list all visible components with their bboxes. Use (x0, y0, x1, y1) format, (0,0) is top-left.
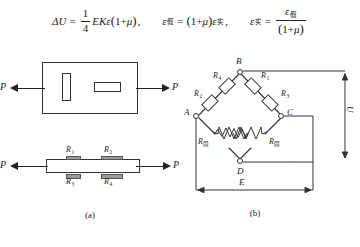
bridge-resistor-label-r3: R3 (281, 89, 289, 99)
bridge-resistor-label-r1: R1 (261, 71, 269, 81)
comma: , (224, 15, 228, 27)
resistor-subscript: 2 (199, 93, 202, 99)
fixed-resistor-label-left: R固 (198, 137, 209, 148)
force-label-left: P (0, 81, 6, 92)
subscript-apparent: 假 (289, 11, 297, 18)
force-arrow-left-shaft-2 (18, 166, 48, 167)
resistor-label-r4: R4 (104, 177, 112, 187)
resistor-subscript: 3 (71, 181, 74, 187)
equals-sign: = (262, 15, 274, 27)
equation-delta-u: ΔU = 1 4 EKε(1+μ), (52, 8, 140, 34)
node-a (193, 113, 199, 119)
fixed-resistor-label-right: R固 (269, 137, 280, 148)
force-arrow-right-head-2 (163, 162, 171, 170)
node-label-d: D (237, 166, 244, 176)
gauge-mark-r2 (101, 156, 123, 161)
subscript-actual: 实 (217, 16, 225, 26)
formula-row: ΔU = 1 4 EKε(1+μ), ε假 = (1+μ)ε实, ε实 = ε假… (0, 4, 360, 38)
subscript-apparent: 假 (167, 16, 175, 26)
node-b (237, 69, 243, 75)
equals-sign: = (174, 15, 186, 27)
resistor-subscript: 固 (203, 141, 209, 147)
force-arrow-left-head-2 (10, 162, 18, 170)
caption-a: (a) (70, 210, 110, 220)
u-symbol: U (59, 15, 67, 27)
specimen-strip (46, 159, 140, 173)
e-symbol: E (92, 15, 99, 27)
comma: , (137, 15, 141, 27)
fraction-one-quarter: 1 4 (81, 8, 91, 34)
resistor-subscript: 2 (109, 149, 112, 155)
bridge-resistor-label-r4: R4 (213, 71, 221, 81)
fraction-denominator: (1+μ) (276, 20, 306, 36)
one-plus: 1+ (282, 23, 294, 35)
resistor-subscript: 4 (218, 75, 221, 81)
fixed-resistor-zigzags (185, 40, 360, 225)
node-d (237, 158, 243, 164)
node-label-a: A (184, 107, 190, 117)
resistor-subscript: 1 (266, 75, 269, 81)
force-arrow-left-head (10, 84, 18, 92)
fraction-numerator: 1 (81, 8, 91, 20)
subscript-actual: 实 (254, 16, 262, 26)
specimen-block-group (42, 62, 138, 114)
force-arrow-right-shaft (136, 88, 163, 89)
resistor-subscript: 4 (109, 181, 112, 187)
output-label-u: U (345, 106, 355, 113)
resistor-subscript: 固 (274, 141, 280, 147)
force-label-right-2: P (173, 159, 179, 170)
node-label-b: B (236, 56, 242, 66)
resistor-label-r2: R2 (104, 145, 112, 155)
bridge-resistor-label-r2: R2 (194, 89, 202, 99)
one-plus: 1+ (115, 15, 127, 27)
source-label-e: E (239, 177, 245, 187)
close-paren: ) (300, 21, 304, 36)
force-label-left-2: P (0, 159, 6, 170)
figure-b: B A C D R4 R2 R1 R3 R固 R固 E U (b) (185, 40, 360, 225)
figure-a: P P R1 R2 R3 R4 P (0, 42, 182, 222)
resistor-label-r1: R1 (66, 145, 74, 155)
resistor-subscript: 1 (71, 149, 74, 155)
specimen-block (42, 62, 138, 114)
resistor-label-r3: R3 (66, 177, 74, 187)
fraction-numerator: ε假 (283, 6, 299, 20)
fraction-denominator: 4 (81, 21, 91, 34)
equation-epsilon-actual: ε实 = ε假 (1+μ) (250, 6, 308, 35)
gauge-mark-r1 (66, 156, 81, 161)
equation-epsilon-apparent: ε假 = (1+μ)ε实, (162, 13, 228, 29)
force-label-right: P (172, 81, 178, 92)
one-plus: 1+ (191, 15, 203, 27)
figure-page: ΔU = 1 4 EKε(1+μ), ε假 = (1+μ)ε实, ε实 = ε假… (0, 0, 360, 247)
force-arrow-right-head (162, 84, 170, 92)
resistor-subscript: 3 (286, 93, 289, 99)
fraction-epsilon-over-one-plus-mu: ε假 (1+μ) (276, 6, 306, 35)
caption-b: (b) (235, 208, 275, 218)
node-label-c: C (287, 107, 293, 117)
strain-gauge-vertical-icon (62, 73, 71, 101)
strain-gauge-horizontal-icon (94, 82, 121, 92)
force-arrow-right-shaft-2 (136, 166, 164, 167)
force-arrow-left-shaft (18, 88, 45, 89)
equals-sign: = (67, 15, 79, 27)
k-symbol: K (99, 15, 106, 27)
node-c (278, 113, 284, 119)
